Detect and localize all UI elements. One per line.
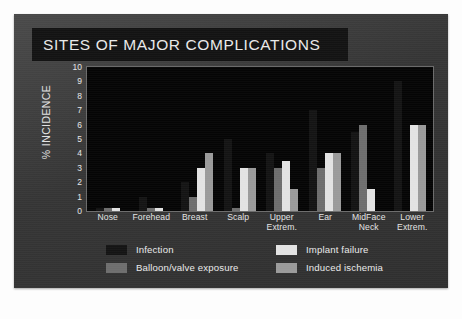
y-tick-label: 8 [77,92,82,100]
bar [248,168,256,211]
x-tick-label: Scalp [217,212,261,236]
legend-label: Implant failure [306,244,369,255]
slide: SITES OF MAJOR COMPLICATIONS % INCIDENCE… [14,14,448,288]
bar [139,197,147,211]
bar [181,182,189,211]
legend-label: Infection [136,244,174,255]
bar [240,168,248,211]
x-tick-label: Ear [304,212,348,236]
y-tick-label: 9 [77,77,82,85]
y-tick-label: 2 [77,178,82,186]
bar-group [91,67,134,211]
bar-chart: % INCIDENCE 109876543210 [28,66,434,221]
bar-group [304,67,347,211]
y-tick-label: 5 [77,135,82,143]
bar-group [176,67,219,211]
y-tick-label: 6 [77,121,82,129]
y-tick-label: 10 [73,63,82,71]
legend-label: Balloon/valve exposure [136,262,239,273]
x-tick-label: LowerExtrem. [391,212,435,236]
legend-item: Implant failure [276,244,436,255]
bar [309,110,317,211]
bar [317,168,325,211]
bar [333,153,341,211]
legend-label: Induced ischemia [306,262,383,273]
bar-group [346,67,389,211]
bar [197,168,205,211]
bar [351,132,359,211]
bar [147,208,155,211]
bar [104,208,112,211]
legend-swatch [106,245,127,255]
bar [112,208,120,211]
bar [266,153,274,211]
bar [232,208,240,211]
bar [359,125,367,211]
bar [325,153,333,211]
bar [274,168,282,211]
y-tick-label: 4 [77,149,82,157]
y-tick-label: 1 [77,193,82,201]
bar [282,161,290,211]
legend-swatch [276,245,297,255]
page-title: SITES OF MAJOR COMPLICATIONS [32,36,320,54]
y-tick-label: 3 [77,164,82,172]
y-tick-label: 7 [77,106,82,114]
x-tick-label: Nose [86,212,130,236]
bar [96,208,104,211]
bar [224,139,232,211]
bar [189,197,197,211]
bar [290,189,298,211]
y-axis-ticks: 109876543210 [66,66,82,212]
legend-item: Induced ischemia [276,262,436,273]
bar [205,153,213,211]
bar [155,208,163,211]
x-tick-label: MidFaceNeck [347,212,391,236]
chart-legend: InfectionImplant failureBalloon/valve ex… [106,244,436,273]
y-axis-label: % INCIDENCE [40,68,52,176]
plot-area [86,66,434,212]
x-axis-labels: NoseForeheadBreastScalpUpperExtrem.EarMi… [86,212,434,236]
bar-group [134,67,177,211]
title-bar: SITES OF MAJOR COMPLICATIONS [32,28,348,61]
legend-item: Balloon/valve exposure [106,262,266,273]
bar [394,81,402,211]
legend-swatch [106,263,127,273]
bar-group [261,67,304,211]
x-tick-label: Forehead [130,212,174,236]
bar-group [389,67,432,211]
y-tick-label: 0 [77,207,82,215]
x-tick-label: Breast [173,212,217,236]
bar-group [219,67,262,211]
bar [410,125,418,211]
legend-swatch [276,263,297,273]
x-tick-label: UpperExtrem. [260,212,304,236]
bar-groups [87,67,433,211]
legend-item: Infection [106,244,266,255]
bar [367,189,375,211]
bar [418,125,426,211]
